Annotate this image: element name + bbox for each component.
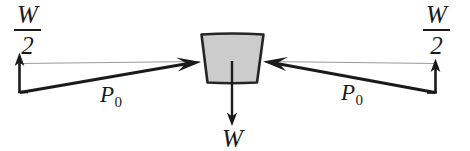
force-diagram-figure: W 2 W 2 P0 P0 W xyxy=(0,0,470,151)
force-arrow-right-shaft xyxy=(274,63,435,93)
construction-line-left xyxy=(20,62,200,64)
force-diagram-canvas xyxy=(0,0,470,151)
force-arrow-left-shaft xyxy=(20,63,191,93)
construction-line-right xyxy=(265,62,436,64)
